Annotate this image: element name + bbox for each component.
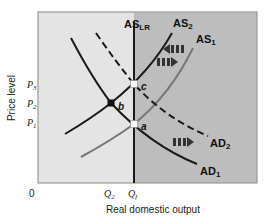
y-axis-title: Price level (6, 75, 17, 121)
x-axis-title: Real domestic output (106, 204, 200, 215)
x-tick-q2: Q2 (104, 188, 115, 201)
point-c-label: c (141, 81, 147, 92)
point-b-label: b (118, 101, 124, 112)
y-tick-p1: P1 (26, 117, 37, 130)
point-b-marker (108, 100, 115, 107)
plot-left-region (38, 12, 134, 183)
point-a-label: a (141, 121, 147, 132)
y-tick-p3: P3 (26, 79, 37, 92)
point-a-marker (131, 121, 138, 128)
point-c-marker (131, 81, 138, 88)
y-tick-p2: P2 (26, 98, 37, 111)
economics-diagram: c b a ASLR AS2 AS1 AD2 AD1 P3 P2 P1 0 Q2… (0, 0, 268, 219)
x-tick-qf: Qf (128, 188, 138, 201)
origin-label: 0 (29, 188, 35, 199)
